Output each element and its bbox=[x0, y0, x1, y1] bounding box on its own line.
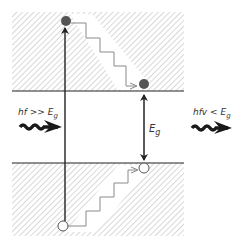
relaxed-electron bbox=[139, 79, 149, 89]
emitted-photon: hfv < Eg bbox=[192, 107, 232, 134]
band-gap-diagram: Eg hf >> Eg hfv < Eg bbox=[0, 0, 244, 246]
incoming-photon: hf >> Eg bbox=[18, 107, 62, 133]
incoming-photon-label: hf >> Eg bbox=[18, 107, 58, 120]
relaxed-hole bbox=[139, 163, 149, 173]
emitted-photon-label: hfv < Eg bbox=[193, 107, 231, 120]
excited-electron bbox=[61, 16, 71, 26]
valence-band bbox=[12, 163, 184, 236]
excited-hole bbox=[58, 221, 68, 231]
conduction-band bbox=[12, 12, 184, 91]
band-gap-label: Eg bbox=[149, 123, 160, 137]
